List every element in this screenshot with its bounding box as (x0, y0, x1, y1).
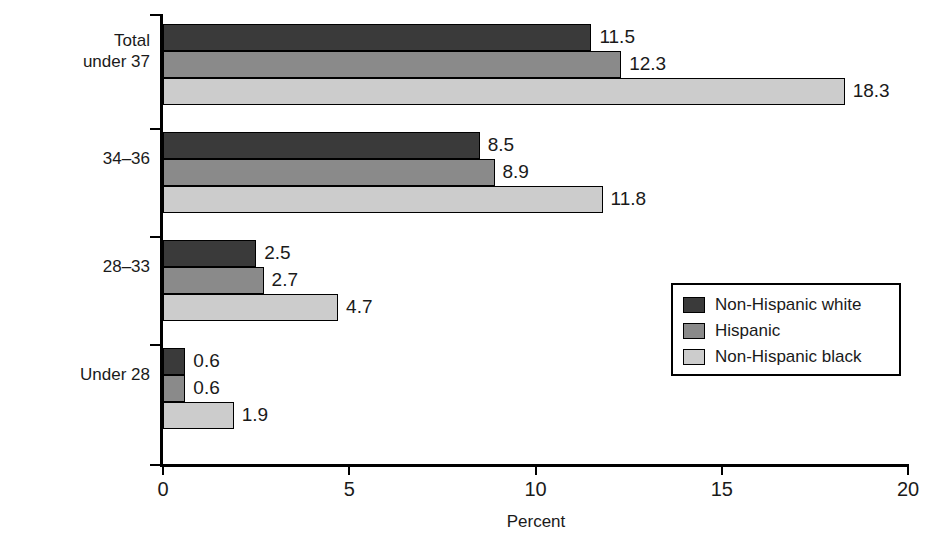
category-label-line: under 37 (5, 51, 150, 72)
bar-value-label: 2.5 (264, 242, 290, 264)
x-axis-tick-label: 15 (692, 478, 752, 501)
legend-label: Hispanic (715, 321, 780, 341)
category-label: 34–36 (5, 148, 150, 169)
category-label-line: Total (5, 30, 150, 51)
bar-value-label: 4.7 (346, 296, 372, 318)
bar-value-label: 18.3 (853, 80, 890, 102)
category-label-line: Under 28 (5, 364, 150, 385)
legend-item: Non-Hispanic white (683, 292, 899, 318)
bar (163, 402, 234, 429)
x-axis-tick (535, 464, 537, 475)
bar (163, 159, 495, 186)
y-axis-tick (150, 344, 163, 346)
legend: Non-Hispanic whiteHispanicNon-Hispanic b… (671, 283, 901, 376)
bar (163, 375, 185, 402)
bar-value-label: 11.8 (611, 188, 647, 210)
x-axis-tick (162, 464, 164, 475)
bar (163, 186, 603, 213)
bar (163, 348, 185, 375)
bar (163, 78, 845, 105)
bar (163, 240, 256, 267)
x-axis-tick (721, 464, 723, 475)
bar-chart: Weeks of gestation Totalunder 3734–3628–… (0, 0, 940, 552)
bar (163, 267, 264, 294)
bar-value-label: 0.6 (193, 350, 219, 372)
x-axis-tick-label: 0 (133, 478, 193, 501)
category-label-line: 28–33 (5, 256, 150, 277)
legend-swatch-icon (683, 349, 705, 365)
y-axis-tick (150, 128, 163, 130)
bar (163, 294, 338, 321)
bar (163, 24, 591, 51)
category-label: Totalunder 37 (5, 30, 150, 72)
bar-value-label: 8.9 (503, 161, 529, 183)
x-axis-tick (348, 464, 350, 475)
x-axis-tick-label: 20 (878, 478, 938, 501)
bar-value-label: 8.5 (488, 134, 514, 156)
category-label-line: 34–36 (5, 148, 150, 169)
bar-value-label: 11.5 (599, 26, 635, 48)
bar-value-label: 0.6 (193, 377, 219, 399)
bar-value-label: 12.3 (629, 53, 666, 75)
x-axis-title: Percent (163, 512, 909, 532)
legend-label: Non-Hispanic black (715, 347, 861, 367)
legend-swatch-icon (683, 297, 705, 313)
category-label-group: Totalunder 3734–3628–33Under 28 (0, 0, 150, 552)
bar-value-label: 1.9 (242, 404, 268, 426)
legend-label: Non-Hispanic white (715, 295, 861, 315)
y-axis-tick (150, 236, 163, 238)
x-axis-tick-label: 5 (319, 478, 379, 501)
bar-value-label: 2.7 (272, 269, 298, 291)
legend-item: Non-Hispanic black (683, 344, 899, 370)
bar (163, 51, 621, 78)
x-axis-tick-label: 10 (506, 478, 566, 501)
category-label: 28–33 (5, 256, 150, 277)
category-label: Under 28 (5, 364, 150, 385)
legend-swatch-icon (683, 323, 705, 339)
x-axis-tick (907, 464, 909, 475)
y-axis-tick (150, 14, 163, 16)
bar (163, 132, 480, 159)
legend-item: Hispanic (683, 318, 899, 344)
